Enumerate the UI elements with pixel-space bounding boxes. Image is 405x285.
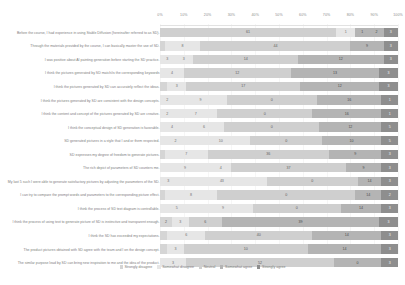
- row-label: SD generated pictures in a style that I …: [64, 139, 159, 143]
- bar-segment: 12: [319, 122, 381, 131]
- stacked-bar: 236393: [160, 217, 398, 226]
- bar-segment: 61: [160, 28, 336, 37]
- bar-segment: 1: [355, 28, 369, 37]
- bar-segment: 0: [250, 136, 321, 145]
- bar-segment: 3: [379, 217, 398, 226]
- bar-segment: 2: [381, 190, 398, 199]
- bar-segment: 44: [200, 41, 350, 50]
- stacked-bar: 640143: [160, 231, 398, 240]
- bar-segment: 14: [341, 204, 381, 213]
- row-label: The rich depict of parameters of SD coun…: [83, 166, 159, 170]
- bar-segment: 36: [208, 150, 329, 159]
- chart-row: Before the course, I had experience in u…: [0, 26, 405, 40]
- bar-segment: 12: [300, 82, 379, 91]
- bar-segment: 5: [160, 204, 193, 213]
- bar-segment: 0: [227, 95, 317, 104]
- x-axis-tick: 70%: [323, 13, 331, 17]
- bar-segment: 0: [217, 109, 312, 118]
- bar-segment: 10: [184, 244, 308, 253]
- row-label: I think the content and concept of the p…: [41, 112, 159, 116]
- stacked-bar: 310143: [160, 244, 398, 253]
- bar-segment: [160, 231, 167, 240]
- bar-segment: 3: [174, 55, 193, 64]
- bar-segment: 10: [191, 136, 251, 145]
- x-axis-tick: 20%: [204, 13, 212, 17]
- bar-segment: 3: [381, 244, 398, 253]
- bar-segment: 0: [224, 122, 319, 131]
- legend-item[interactable]: Somewhat disagree: [157, 265, 194, 269]
- row-label: I think the conceptual design of SD gene…: [68, 125, 159, 129]
- bar-segment: 4: [160, 68, 184, 77]
- bar-segment: 16: [317, 95, 381, 104]
- bar-segment: 6: [184, 122, 224, 131]
- bar-segment: 1: [381, 95, 398, 104]
- bar-segment: 10: [322, 136, 382, 145]
- bar-segment: 3: [167, 82, 186, 91]
- row-label: I can try to compare the prompt words an…: [20, 193, 159, 197]
- bar-segment: 16: [312, 109, 381, 118]
- bar-segment: [160, 244, 167, 253]
- bar-segment: 3: [160, 177, 177, 186]
- bar-segment: 2: [160, 109, 174, 118]
- chart-row: I was positive about AI painting generat…: [0, 53, 405, 67]
- stacked-bar: 84493: [160, 41, 398, 50]
- x-axis-tick: 80%: [347, 13, 355, 17]
- bar-segment: 3: [379, 68, 398, 77]
- bar-segment: 9: [193, 204, 253, 213]
- legend-label: Neutral: [204, 265, 216, 269]
- bar-segment: 9: [346, 163, 382, 172]
- chart-rows: Before the course, I had experience in u…: [0, 26, 405, 270]
- bar-segment: 8: [165, 190, 217, 199]
- bar-segment: 3: [384, 55, 398, 64]
- chart-row: SD expresses my degree of freedom to gen…: [0, 148, 405, 162]
- bar-segment: 2: [160, 95, 174, 104]
- bar-segment: 5: [381, 122, 398, 131]
- bar-segment: 3: [381, 163, 398, 172]
- row-label: I think the pictures generated by SD can…: [54, 85, 160, 89]
- bar-segment: 43: [177, 177, 267, 186]
- chart-row: I think the SD has exceeded my expectati…: [0, 229, 405, 243]
- legend-item[interactable]: Somewhat agree: [220, 265, 252, 269]
- legend-item[interactable]: Neutral: [199, 265, 215, 269]
- stacked-bar: 3430143: [160, 177, 398, 186]
- chart-row: The product pictures obtained with SD ag…: [0, 243, 405, 257]
- chart-row: The rich depict of parameters of SD coun…: [0, 161, 405, 175]
- legend-swatch-icon: [120, 265, 123, 268]
- x-axis-tick: 10%: [180, 13, 188, 17]
- stacked-bar: 317123: [160, 82, 398, 91]
- legend-swatch-icon: [199, 265, 202, 268]
- chart-row: I think the content and concept of the p…: [0, 107, 405, 121]
- chart-legend: Strongly disagreeSomewhat disagreeNeutra…: [0, 265, 405, 269]
- row-label: Before the course, I had experience in u…: [17, 31, 160, 35]
- stacked-bar: 73693: [160, 150, 398, 159]
- bar-segment: 3: [381, 177, 398, 186]
- bar-segment: 2: [369, 28, 383, 37]
- bar-segment: 9: [350, 41, 383, 50]
- bar-segment: 3: [167, 244, 184, 253]
- bar-segment: 3: [384, 41, 398, 50]
- bar-segment: 1: [381, 109, 398, 118]
- legend-item[interactable]: Strongly disagree: [120, 265, 153, 269]
- row-label: My last 5 such I were able to generate s…: [8, 180, 160, 184]
- stacked-bar: 270161: [160, 109, 398, 118]
- legend-label: Strongly disagree: [124, 265, 152, 269]
- bar-segment: 3: [381, 150, 398, 159]
- row-label: I think the process of using text to gen…: [12, 220, 159, 224]
- bar-segment: 2: [160, 217, 172, 226]
- bar-segment: 9: [160, 163, 210, 172]
- bar-segment: 14: [308, 244, 382, 253]
- bar-segment: 3: [381, 231, 398, 240]
- bar-segment: 0: [217, 190, 355, 199]
- chart-row: My last 5 such I were able to generate s…: [0, 175, 405, 189]
- legend-item[interactable]: Strongly agree: [257, 265, 285, 269]
- chart-row: I think the process of using text to gen…: [0, 216, 405, 230]
- bar-segment: 12: [298, 55, 384, 64]
- bar-segment: [160, 82, 167, 91]
- bar-segment: 3: [381, 204, 398, 213]
- row-label: SD expresses my degree of freedom to gen…: [70, 152, 160, 156]
- legend-label: Strongly agree: [262, 265, 285, 269]
- row-label: I think the SD has exceeded my expectati…: [88, 234, 159, 238]
- bar-segment: 12: [184, 68, 291, 77]
- x-axis-tick-labels: 0%10%20%30%40%50%60%70%80%90%100%: [0, 13, 405, 22]
- bar-segment: 0: [253, 204, 341, 213]
